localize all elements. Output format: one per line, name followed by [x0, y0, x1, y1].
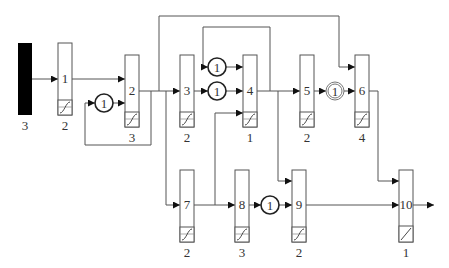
block-8: 8 3 — [235, 170, 249, 260]
connection-wires — [32, 16, 434, 205]
delay-label: 1 — [214, 60, 221, 75]
block-label: 7 — [184, 197, 191, 212]
block-sub-label: 1 — [403, 245, 410, 260]
delay-node-3-4: 1 — [208, 82, 226, 100]
block-sub-label: 2 — [296, 245, 303, 260]
block-label: 1 — [62, 71, 69, 86]
block-5: 5 2 — [300, 55, 314, 145]
block-label: 2 — [129, 83, 136, 98]
block-label: 5 — [304, 83, 311, 98]
block-sub-label: 3 — [129, 130, 136, 145]
block-sub-label: 2 — [184, 245, 191, 260]
block-10: 10 1 — [399, 170, 413, 260]
source-sub-label: 3 — [22, 118, 29, 133]
delay-label: 1 — [101, 96, 108, 111]
block-label: 9 — [296, 197, 303, 212]
block-label: 8 — [239, 197, 246, 212]
source-block: 3 — [18, 43, 32, 133]
block-sub-label: 3 — [239, 245, 246, 260]
delay-node-5-6-double: 1 — [326, 82, 344, 100]
block-3: 3 2 — [180, 55, 194, 145]
delay-label: 1 — [267, 198, 274, 213]
block-label: 10 — [400, 197, 413, 212]
block-6: 6 4 — [355, 55, 369, 145]
delay-label: 1 — [332, 84, 339, 99]
block-2: 2 3 — [125, 55, 139, 145]
block-sub-label: 2 — [62, 118, 69, 133]
block-sub-label: 2 — [304, 130, 311, 145]
wire-6-to-10 — [369, 91, 399, 181]
block-sub-label: 4 — [359, 130, 366, 145]
block-sub-label: 2 — [184, 130, 191, 145]
wire-2-feedback — [85, 91, 151, 145]
delay-label: 1 — [214, 84, 221, 99]
wire-2-to-7 — [166, 91, 180, 205]
delay-node-8-9: 1 — [261, 196, 279, 214]
block-7: 7 2 — [180, 170, 194, 260]
source-bar — [18, 43, 32, 115]
block-4: 4 1 — [243, 55, 257, 145]
block-sub-label: 1 — [247, 130, 254, 145]
block-1: 1 2 — [58, 43, 72, 133]
network-diagram: 3 1 2 2 3 3 2 4 1 — [0, 0, 449, 268]
block-label: 3 — [184, 83, 191, 98]
block-label: 6 — [359, 83, 366, 98]
block-9: 9 2 — [292, 170, 306, 260]
block-label: 4 — [247, 83, 254, 98]
wire-4-to-9 — [278, 91, 292, 181]
delay-node-feedback-2: 1 — [95, 94, 113, 112]
delay-node-top-4: 1 — [208, 58, 226, 76]
